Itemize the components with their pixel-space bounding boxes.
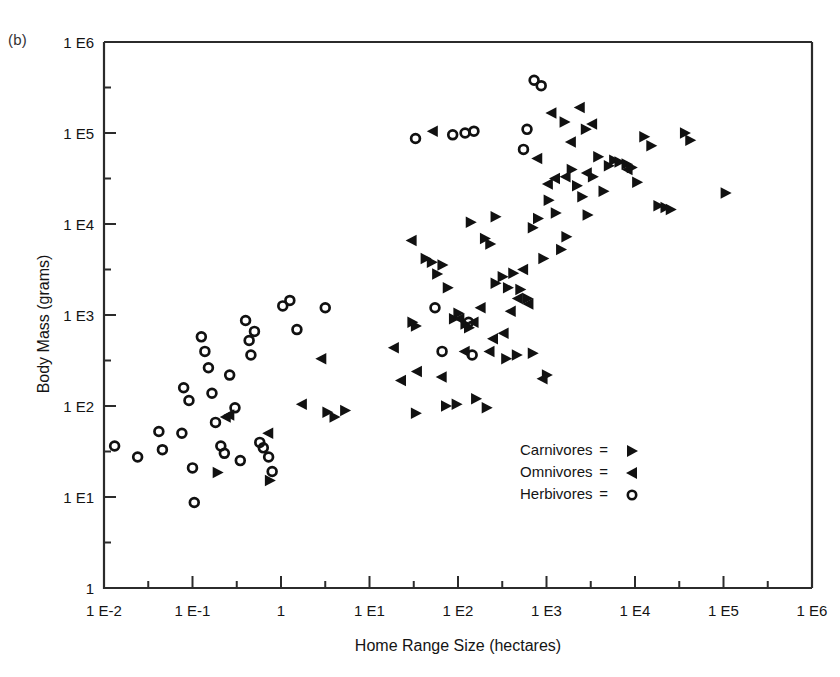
data-point-open-circle	[154, 427, 163, 436]
data-point-right-triangle	[583, 209, 594, 221]
data-point-right-triangle	[551, 207, 562, 219]
legend: Carnivores = Omnivores = Herbivores =	[520, 438, 649, 504]
data-point-open-circle	[204, 363, 213, 372]
data-point-right-triangle	[560, 116, 571, 128]
data-point-right-triangle	[491, 211, 502, 223]
left-triangle-icon	[615, 463, 649, 479]
data-point-open-circle	[468, 351, 477, 360]
data-point-left-triangle	[436, 371, 447, 383]
data-point-open-circle	[236, 456, 245, 465]
legend-label-herbivores: Herbivores	[520, 485, 593, 502]
data-point-right-triangle	[515, 284, 526, 296]
data-point-open-circle	[438, 347, 447, 356]
x-tick-label: 1 E-2	[86, 602, 122, 619]
data-point-left-triangle	[475, 302, 486, 314]
data-point-right-triangle	[538, 253, 549, 264]
legend-equals-herbivores: =	[593, 485, 615, 502]
data-point-right-triangle	[556, 244, 567, 256]
data-point-right-triangle	[501, 353, 512, 365]
scatter-plot-figure: (b) Body Mass (grams) Home Range Size (h…	[0, 0, 840, 677]
data-point-open-circle	[208, 389, 217, 398]
data-point-left-triangle	[315, 353, 326, 365]
data-point-open-circle	[177, 429, 186, 438]
data-point-right-triangle	[329, 411, 340, 423]
data-point-open-circle	[185, 396, 194, 405]
data-point-right-triangle	[498, 271, 509, 283]
data-point-right-triangle	[599, 185, 610, 197]
y-tick-label: 1 E3	[20, 307, 94, 324]
series-carnivores	[213, 116, 732, 486]
data-point-right-triangle	[340, 405, 351, 417]
data-point-right-triangle	[632, 176, 643, 188]
data-point-right-triangle	[466, 216, 477, 228]
legend-label-carnivores: Carnivores	[520, 441, 593, 458]
data-point-left-triangle	[560, 171, 571, 183]
data-point-left-triangle	[296, 398, 307, 410]
data-point-left-triangle	[406, 235, 417, 247]
data-point-left-triangle	[581, 167, 592, 179]
data-point-open-circle	[188, 463, 197, 472]
legend-equals-omnivores: =	[593, 463, 615, 480]
data-point-right-triangle	[666, 204, 677, 216]
data-point-open-circle	[470, 127, 479, 136]
data-point-open-circle	[259, 443, 268, 452]
data-point-right-triangle	[443, 282, 454, 294]
legend-equals-carnivores: =	[593, 441, 615, 458]
data-point-right-triangle	[213, 467, 224, 479]
data-point-open-circle	[411, 134, 420, 143]
data-point-open-circle	[264, 453, 273, 462]
data-point-right-triangle	[577, 191, 588, 203]
data-point-right-triangle	[512, 349, 523, 361]
data-point-open-circle	[537, 81, 546, 90]
y-tick-label: 1 E6	[20, 34, 94, 51]
data-point-right-triangle	[485, 238, 496, 250]
data-point-open-circle	[431, 303, 440, 312]
data-point-right-triangle	[441, 400, 452, 412]
data-point-open-circle	[321, 303, 330, 312]
legend-item-carnivores: Carnivores =	[520, 438, 649, 460]
data-point-open-circle	[110, 442, 119, 451]
legend-label-omnivores: Omnivores	[520, 463, 593, 480]
y-tick-label: 1	[20, 580, 94, 597]
x-tick-label: 1 E5	[708, 602, 739, 619]
data-point-right-triangle	[639, 131, 650, 143]
data-point-left-triangle	[498, 327, 509, 339]
data-point-right-triangle	[411, 408, 422, 420]
data-point-left-triangle	[565, 136, 576, 148]
data-point-open-circle	[200, 347, 209, 356]
x-tick-label: 1	[277, 602, 285, 619]
data-point-right-triangle	[721, 187, 732, 199]
data-point-left-triangle	[531, 153, 542, 165]
data-point-left-triangle	[411, 366, 422, 378]
data-point-left-triangle	[505, 306, 516, 318]
x-tick-label: 1 E-1	[175, 602, 211, 619]
data-point-left-triangle	[262, 428, 273, 440]
data-point-left-triangle	[517, 264, 528, 276]
data-point-right-triangle	[572, 180, 583, 192]
data-point-open-circle	[285, 296, 294, 305]
data-point-right-triangle	[646, 140, 657, 152]
data-point-open-circle	[133, 453, 142, 462]
data-point-right-triangle	[503, 282, 514, 294]
legend-item-herbivores: Herbivores =	[520, 482, 649, 504]
data-point-right-triangle	[508, 267, 519, 279]
data-point-right-triangle	[685, 135, 696, 147]
data-point-right-triangle	[427, 256, 438, 268]
data-point-left-triangle	[542, 178, 553, 190]
open-circle-icon	[615, 485, 649, 501]
data-point-open-circle	[268, 467, 277, 476]
series-omnivores	[220, 102, 633, 439]
y-tick-label: 1 E5	[20, 125, 94, 142]
x-tick-label: 1 E6	[797, 602, 828, 619]
data-point-right-triangle	[528, 347, 539, 359]
data-point-open-circle	[231, 403, 240, 412]
data-point-open-circle	[293, 325, 302, 334]
data-point-left-triangle	[574, 102, 585, 114]
data-point-right-triangle	[544, 195, 555, 207]
data-point-open-circle	[519, 145, 528, 154]
y-tick-label: 1 E1	[20, 489, 94, 506]
y-tick-label: 1 E2	[20, 398, 94, 415]
data-point-open-circle	[523, 125, 532, 134]
data-point-open-circle	[241, 316, 250, 325]
data-point-right-triangle	[437, 259, 448, 271]
